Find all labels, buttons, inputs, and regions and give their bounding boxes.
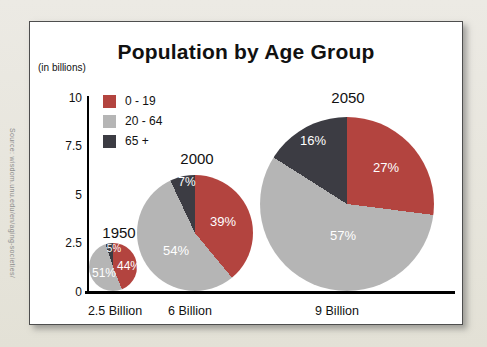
y-tick-10: 10 bbox=[38, 91, 82, 105]
legend-row-0-19: 0 - 19 bbox=[103, 91, 162, 111]
legend-swatch-20-64 bbox=[103, 115, 116, 128]
legend-row-20-64: 20 - 64 bbox=[103, 111, 162, 131]
pie-1950-pct-0-19: 44% bbox=[117, 259, 141, 273]
chart-panel: Population by Age Group (in billions) 10… bbox=[29, 21, 463, 325]
pie-2050-pct-65-plus: 16% bbox=[300, 133, 326, 148]
total-label-2050: 9 Billion bbox=[315, 304, 359, 318]
pie-2050-pct-20-64: 57% bbox=[330, 228, 356, 243]
pie-2000-pct-20-64: 54% bbox=[163, 243, 189, 258]
y-tick-7-5: 7.5 bbox=[38, 139, 82, 153]
legend-swatch-0-19 bbox=[103, 95, 116, 108]
year-label-1950: 1950 bbox=[102, 224, 135, 241]
total-label-2000: 6 Billion bbox=[168, 304, 212, 318]
y-tick-0: 0 bbox=[38, 285, 82, 299]
pie-2050-pct-0-19: 27% bbox=[373, 160, 399, 175]
legend-swatch-65-plus bbox=[103, 135, 116, 148]
y-tick-2-5: 2.5 bbox=[38, 236, 82, 250]
legend: 0 - 19 20 - 64 65 + bbox=[103, 91, 162, 151]
chart-title: Population by Age Group bbox=[30, 40, 462, 64]
year-label-2000: 2000 bbox=[180, 150, 213, 167]
pie-2000 bbox=[137, 175, 253, 291]
pie-2000-pct-0-19: 39% bbox=[210, 214, 236, 229]
legend-label-65-plus: 65 + bbox=[125, 134, 149, 148]
pie-1950-pct-65-plus: 5% bbox=[107, 243, 121, 254]
total-label-1950: 2.5 Billion bbox=[88, 304, 142, 318]
screenshot-stage: Source: wisdom.unu.edu/en/aging-societie… bbox=[0, 0, 487, 347]
pie-2000-pct-65-plus: 7% bbox=[178, 175, 195, 189]
legend-row-65-plus: 65 + bbox=[103, 131, 162, 151]
year-label-2050: 2050 bbox=[331, 89, 364, 106]
x-axis-line bbox=[85, 291, 455, 294]
legend-label-20-64: 20 - 64 bbox=[125, 114, 162, 128]
pie-1950-pct-20-64: 51% bbox=[92, 266, 116, 280]
source-attribution: Source: wisdom.unu.edu/en/aging-societie… bbox=[9, 128, 16, 328]
legend-label-0-19: 0 - 19 bbox=[125, 94, 156, 108]
axis-units-label: (in billions) bbox=[38, 62, 86, 73]
pie-2050 bbox=[260, 117, 434, 291]
y-tick-5: 5 bbox=[38, 188, 82, 202]
